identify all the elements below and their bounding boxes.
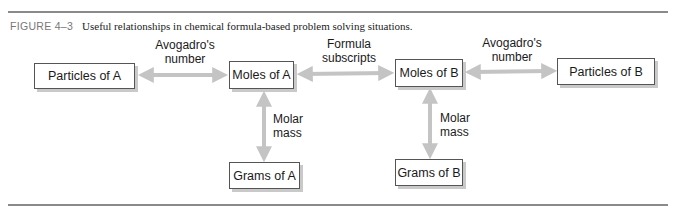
node-moles-of-b: Moles of B xyxy=(395,59,463,87)
arrow-moles-b-particles-b xyxy=(472,71,550,72)
label-formula-subscripts: Formula subscripts xyxy=(310,37,388,65)
node-particles-of-a: Particles of A xyxy=(34,63,135,89)
label-molar-mass-b: Molar mass xyxy=(440,111,470,139)
label-avogadro-b: Avogadro's number xyxy=(472,36,552,64)
label-avogadro-a: Avogadro's number xyxy=(145,38,225,66)
node-grams-of-a: Grams of A xyxy=(229,162,300,189)
node-moles-of-a: Moles of A xyxy=(229,61,294,89)
label-molar-mass-a: Molar mass xyxy=(273,112,303,140)
node-grams-of-b: Grams of B xyxy=(395,159,463,186)
bottom-rule xyxy=(8,204,668,206)
node-particles-of-b: Particles of B xyxy=(557,58,655,85)
arrows xyxy=(0,0,688,207)
arrow-moles-a-moles-b xyxy=(304,73,387,74)
